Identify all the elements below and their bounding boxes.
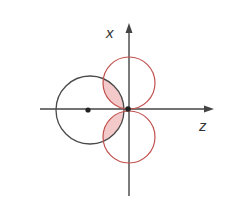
origin-dot [125, 106, 131, 112]
left-center-dot [85, 107, 90, 112]
x-axis-arrowhead [126, 23, 133, 33]
z-axis-label: z [198, 117, 207, 134]
diagram-canvas: x z [0, 0, 235, 202]
z-axis-arrowhead [204, 106, 214, 113]
x-axis-label: x [105, 24, 114, 41]
